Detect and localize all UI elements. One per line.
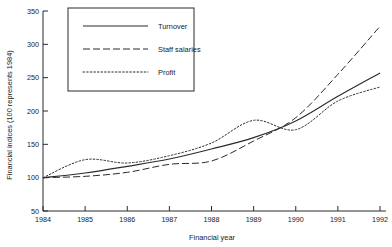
y-tick-label: 200	[27, 107, 39, 116]
x-tick-label: 1984	[35, 215, 51, 224]
x-tick-label: 1992	[372, 215, 388, 224]
chart-canvas: Financial indices (100 represents 1984) …	[0, 0, 392, 247]
y-axis-ticks: 50100150200250300350	[27, 7, 48, 216]
y-axis-title: Financial indices (100 represents 1984)	[5, 50, 14, 179]
x-tick-label: 1991	[330, 215, 346, 224]
x-tick-label: 1988	[204, 215, 220, 224]
x-axis-title: Financial year	[189, 233, 236, 242]
y-tick-label: 100	[27, 173, 39, 182]
financial-indices-line-chart: Financial indices (100 represents 1984) …	[0, 0, 392, 247]
x-axis-ticks: 198419851986198719881989199019911992	[35, 206, 388, 224]
legend-label-staff-salaries: Staff salaries	[158, 45, 201, 54]
y-tick-label: 150	[27, 140, 39, 149]
x-tick-label: 1990	[288, 215, 304, 224]
x-tick-label: 1985	[77, 215, 93, 224]
y-tick-label: 300	[27, 40, 39, 49]
x-tick-label: 1989	[246, 215, 262, 224]
x-tick-label: 1987	[161, 215, 177, 224]
x-tick-label: 1986	[119, 215, 135, 224]
series-line-profit	[43, 87, 380, 178]
legend-label-profit: Profit	[158, 68, 175, 77]
y-tick-label: 350	[27, 7, 39, 16]
legend-label-turnover: Turnover	[158, 22, 188, 31]
y-tick-label: 250	[27, 73, 39, 82]
